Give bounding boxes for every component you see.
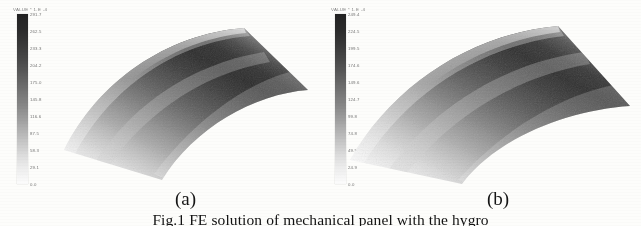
surface-plot-area-b: [320, 0, 641, 192]
surface-plot-area-a: [0, 0, 320, 192]
subfigure-label-b: (b): [487, 189, 509, 209]
contour-surface-b: [346, 20, 634, 188]
figure-caption: Fig.1 FE solution of mechanical panel wi…: [0, 211, 641, 226]
subfigure-a: VALUE * 1.E -4 291.7 262.5 233.3 204.2 1…: [0, 0, 320, 192]
subfigure-b: VALUE * 1.E -4 249.4 224.5 199.5 174.6 1…: [320, 0, 641, 192]
subfigure-label-a: (a): [175, 189, 196, 209]
contour-surface-a: [58, 24, 310, 184]
